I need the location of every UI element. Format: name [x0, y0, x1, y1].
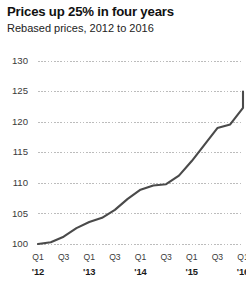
x-axis-year-label-14: '14: [130, 266, 152, 277]
x-axis-quarter-label-0: Q1: [27, 252, 49, 262]
x-axis-year-label-15: '15: [181, 266, 203, 277]
x-axis-quarter-label-7: Q3: [206, 252, 228, 262]
chart-canvas: [0, 0, 246, 284]
gridlines-group: [38, 61, 243, 244]
y-axis-label-130: 130: [4, 55, 28, 66]
x-axis-year-label-16: '16: [232, 266, 246, 277]
y-axis-label-105: 105: [4, 208, 28, 219]
x-axis-quarter-label-3: Q3: [104, 252, 126, 262]
y-axis-label-125: 125: [4, 85, 28, 96]
x-axis-quarter-label-4: Q1: [130, 252, 152, 262]
data-line-group: [38, 92, 243, 245]
x-axis-year-label-13: '13: [78, 266, 100, 277]
y-axis-label-120: 120: [4, 116, 28, 127]
y-axis-label-100: 100: [4, 238, 28, 249]
x-axis-quarter-label-2: Q1: [78, 252, 100, 262]
chart-figure: Prices up 25% in four years Rebased pric…: [0, 0, 246, 284]
plot-area: 130 125 120 115 110 105 100 Q1Q3Q1Q3Q1Q3…: [0, 0, 246, 284]
x-axis-quarter-label-1: Q3: [53, 252, 75, 262]
y-axis-label-115: 115: [4, 146, 28, 157]
x-axis-quarter-label-8: Q1: [232, 252, 246, 262]
data-line-rebased-prices: [38, 92, 243, 245]
y-axis-label-110: 110: [4, 177, 28, 188]
x-axis-quarter-label-5: Q3: [155, 252, 177, 262]
x-axis-year-label-12: '12: [27, 266, 49, 277]
x-axis-quarter-label-6: Q1: [181, 252, 203, 262]
